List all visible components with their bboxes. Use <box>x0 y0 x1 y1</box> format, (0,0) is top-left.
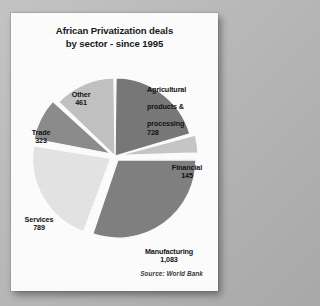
slice-label-trade-value: 323 <box>19 137 63 146</box>
slice-label-services: Services 789 <box>13 207 65 241</box>
slice-label-agricultural-value: 728 <box>147 129 209 138</box>
slice-label-agricultural-line-3: processing <box>147 119 184 128</box>
slice-label-trade: Trade 323 <box>19 120 63 154</box>
chart-title: African Privatization deals by sector - … <box>11 25 218 50</box>
slice-label-financial: Financial 145 <box>161 155 213 189</box>
pie-chart: Other 461 Agricultural products & proces… <box>11 55 218 260</box>
chart-title-line-2: by sector - since 1995 <box>11 38 218 51</box>
slice-label-agricultural-line-1: Agricultural <box>147 85 186 94</box>
chart-source: Source: World Bank <box>140 270 203 277</box>
slice-label-other: Other 461 <box>55 82 107 116</box>
chart-card-inner: African Privatization deals by sector - … <box>11 13 218 291</box>
slice-label-manufacturing: Manufacturing 1,083 <box>129 239 209 273</box>
slice-label-agricultural: Agricultural products & processing 728 <box>147 77 209 146</box>
slice-label-manufacturing-value: 1,083 <box>129 256 209 265</box>
slice-label-financial-value: 145 <box>161 172 213 181</box>
slice-label-services-value: 789 <box>13 224 65 233</box>
chart-card: African Privatization deals by sector - … <box>11 13 218 291</box>
chart-title-line-1: African Privatization deals <box>11 25 218 38</box>
slice-label-other-value: 461 <box>55 99 107 108</box>
slice-label-agricultural-line-2: products & <box>147 102 184 111</box>
